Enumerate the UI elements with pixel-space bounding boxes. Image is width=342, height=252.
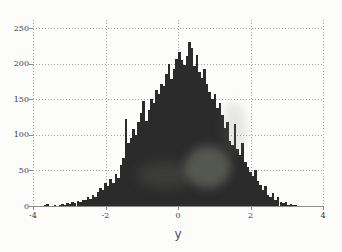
y-tick-label-0: 0 — [0, 202, 29, 211]
y-tick-label-150: 150 — [0, 95, 29, 104]
x-tick-label--2: -2 — [94, 211, 118, 220]
histogram-bin — [295, 205, 298, 206]
y-tick-label-50: 50 — [0, 166, 29, 175]
histogram-bin — [54, 205, 57, 206]
y-tick-label-100: 100 — [0, 130, 29, 139]
y-tick-label-200: 200 — [0, 59, 29, 68]
x-axis-label: y — [33, 227, 323, 241]
x-tick-2 — [251, 206, 252, 210]
x-tick-label-2: 2 — [239, 211, 263, 220]
histogram-bin — [46, 204, 49, 206]
x-tick--4 — [33, 206, 34, 210]
x-tick--2 — [106, 206, 107, 210]
x-tick-label-0: 0 — [166, 211, 190, 220]
x-tick-4 — [323, 206, 324, 210]
gridline-x-4 — [323, 20, 324, 206]
x-tick-label-4: 4 — [311, 211, 335, 220]
x-tick-label--4: -4 — [21, 211, 45, 220]
histogram-figure: 050100150200250 -4-2024 y — [0, 0, 342, 252]
x-tick-0 — [178, 206, 179, 210]
histogram-bars — [33, 28, 323, 206]
y-tick-label-250: 250 — [0, 24, 29, 33]
